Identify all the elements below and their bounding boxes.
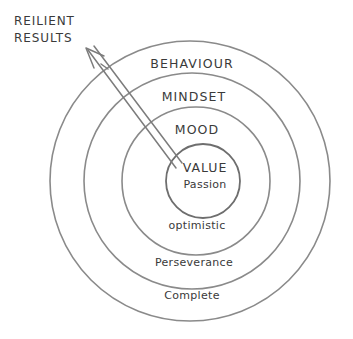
ring-label-optimistic: optimistic	[168, 219, 225, 232]
callout-line-2: RESULTS	[14, 30, 75, 47]
ring-label-complete: Complete	[164, 289, 219, 302]
ring-label-behaviour: BEHAVIOUR	[150, 56, 233, 71]
core-label-passion: Passion	[183, 178, 226, 191]
ring-label-perseverance: Perseverance	[155, 256, 233, 269]
concentric-circle-diagram: REILIENT RESULTS BEHAVIOUR MINDSET MOOD …	[0, 0, 353, 339]
callout-line-1: REILIENT	[14, 13, 75, 30]
core-label-value: VALUE	[183, 160, 228, 175]
ring-label-mood: MOOD	[175, 122, 220, 137]
callout-reilient-results: REILIENT RESULTS	[14, 13, 75, 47]
ring-label-mindset: MINDSET	[162, 89, 227, 104]
